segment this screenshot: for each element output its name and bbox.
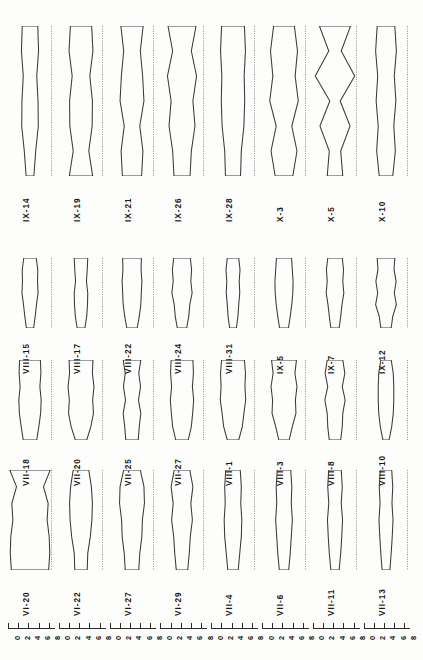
axis-tick [343,623,344,629]
kite-panel[interactable]: VIII-15 [8,258,59,328]
kite-panel[interactable]: VII-27 [160,360,211,440]
axis-tick-label: 2 [226,636,235,640]
kite-shape [8,26,52,176]
kite-panel[interactable]: IX-21 [110,26,161,176]
panel-label: VII-13 [378,588,387,616]
plot-row: VIII-15VIII-17VIII-22VIII-24VIII-31IX-5I… [0,258,423,328]
kite-panel[interactable]: VII-11 [313,470,364,570]
axis-tick-label: 6 [399,636,408,640]
axis-tick [28,623,29,629]
bottom-axis-strip: 0246802468024680246802468024680246802468 [8,622,415,652]
axis-tick-label: 6 [43,636,52,640]
panel-label: VII-6 [276,594,285,616]
kite-panel[interactable]: VI-22 [59,470,110,570]
kite-panel[interactable]: VII-18 [8,360,59,440]
kite-shape [364,258,408,328]
axis-tick [404,623,405,629]
axis-tick [201,623,202,629]
kite-panel[interactable]: VIII-24 [160,258,211,328]
axis-tick-label: 2 [277,636,286,640]
kite-shape [160,258,204,328]
axis-rule [211,628,258,629]
axis-tick [8,623,9,629]
kite-panel[interactable]: VI-20 [8,470,59,570]
axis-tick [252,623,253,629]
axis-tick [333,623,334,629]
kite-panel[interactable]: IX-5 [262,258,313,328]
axis-rule [8,628,55,629]
plot-row-cells: VI-20VI-22VI-27VI-29VII-4VII-6VII-11VII-… [8,470,415,570]
kite-shape [262,470,306,570]
kite-panel[interactable]: VIII-17 [59,258,110,328]
axis-tick-label: 2 [23,636,32,640]
kite-panel[interactable]: VII-6 [262,470,313,570]
axis-rule [262,628,309,629]
axis-tick-label: 0 [114,636,123,640]
kite-shape [313,470,357,570]
axis-tick [323,623,324,629]
kite-panel[interactable]: X-3 [262,26,313,176]
kite-panel[interactable]: VI-29 [160,470,211,570]
panel-label: VI-27 [124,591,133,616]
panel-label: X-5 [327,206,336,222]
axis-tick [262,623,263,629]
kite-shape [160,470,204,570]
axis-tick-label: 4 [134,636,143,640]
kite-panel[interactable]: IX-19 [59,26,110,176]
kite-panel[interactable]: VII-25 [110,360,161,440]
kite-shape [364,470,408,570]
axis-tick [150,623,151,629]
axis-tick [120,623,121,629]
axis-tick-label: 4 [33,636,42,640]
kite-shape [364,360,408,440]
kite-panel[interactable]: VIII-8 [313,360,364,440]
kite-panel[interactable]: IX-28 [211,26,262,176]
kite-panel[interactable]: IX-7 [313,258,364,328]
kite-shape [110,26,154,176]
axis-tick [211,623,212,629]
axis-group: 02468 [211,622,258,652]
axis-group: 02468 [313,622,360,652]
axis-tick [100,623,101,629]
kite-shape [8,360,52,440]
axis-tick-label: 4 [338,636,347,640]
plot-row: VI-20VI-22VI-27VI-29VII-4VII-6VII-11VII-… [0,470,423,570]
kite-shape [59,258,103,328]
kite-panel[interactable]: X-5 [313,26,364,176]
panel-label: IX-14 [22,197,31,222]
axis-tick [110,623,111,629]
kite-panel[interactable]: VII-13 [364,470,415,570]
kite-shape [313,360,357,440]
kite-shape [262,360,306,440]
axis-tick [140,623,141,629]
panel-label: VI-22 [73,591,82,616]
axis-tick-label: 4 [287,636,296,640]
axis-tick [242,623,243,629]
kite-shape [211,360,255,440]
kite-panel[interactable]: VII-4 [211,470,262,570]
kite-panel[interactable]: VIII-31 [211,258,262,328]
kite-panel[interactable]: VIII-3 [262,360,313,440]
axis-tick-label: 0 [13,636,22,640]
axis-tick [89,623,90,629]
kite-panel[interactable]: X-10 [364,26,415,176]
kite-shape [110,360,154,440]
axis-tick [313,623,314,629]
kite-panel[interactable]: VIII-22 [110,258,161,328]
kite-panel[interactable]: IX-12 [364,258,415,328]
axis-group: 02468 [364,622,411,652]
kite-shape [110,258,154,328]
axis-tick-label: 8 [409,636,418,640]
kite-shape [364,26,408,176]
axis-tick [303,623,304,629]
kite-panel[interactable]: VIII-10 [364,360,415,440]
kite-panel[interactable]: VI-27 [110,470,161,570]
plot-row-cells: VII-18VII-20VII-25VII-27VIII-1VIII-3VIII… [8,360,415,440]
panel-label: VII-11 [327,589,336,616]
kite-panel[interactable]: IX-14 [8,26,59,176]
kite-panel[interactable]: VIII-1 [211,360,262,440]
axis-rule [313,628,360,629]
kite-panel[interactable]: VII-20 [59,360,110,440]
kite-shape [59,360,103,440]
kite-panel[interactable]: IX-26 [160,26,211,176]
